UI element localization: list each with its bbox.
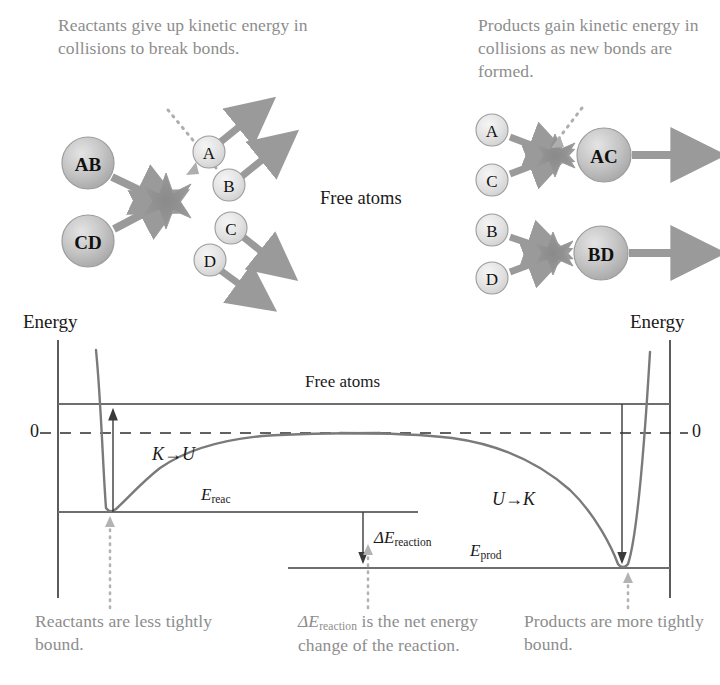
leader-products-bound-arrowhead bbox=[623, 572, 633, 583]
label-energy-right: Energy bbox=[630, 311, 685, 333]
atom-c-right: C bbox=[476, 164, 508, 196]
label-k-to-u: K→U bbox=[152, 444, 195, 465]
label-delta-e-reaction: ΔEreaction bbox=[374, 528, 431, 548]
molecule-ac: AC bbox=[577, 128, 631, 182]
figure-canvas: AB CD A B bbox=[0, 0, 720, 685]
atom-a-right-label: A bbox=[486, 122, 499, 141]
free-atoms-left-group: A B C D bbox=[193, 118, 273, 292]
starburst-icon-reactants bbox=[141, 173, 191, 229]
label-k-to-u-k: K bbox=[152, 444, 164, 464]
label-k-to-u-u: U bbox=[182, 444, 195, 464]
reaction-energy-diagram: AB CD A B bbox=[0, 0, 720, 685]
molecule-cd-label: CD bbox=[74, 232, 101, 253]
caption-delta-e-explanation: ΔEreaction is the net energy change of t… bbox=[298, 610, 513, 657]
caption-delta-e-text: is the net energy change of the reaction… bbox=[298, 611, 478, 655]
pointer-reactants-arrowhead bbox=[186, 162, 199, 175]
label-e-reac: Ereac bbox=[201, 485, 231, 505]
label-delta-e-sub: reaction bbox=[394, 536, 431, 548]
label-e-reac-sub: reac bbox=[211, 493, 230, 505]
starburst-icon-bd bbox=[533, 232, 573, 275]
atom-a-right: A bbox=[476, 114, 508, 146]
atom-c-left-label: C bbox=[225, 220, 236, 239]
molecule-ab: AB bbox=[62, 137, 114, 189]
molecule-ab-label: AB bbox=[75, 154, 102, 175]
label-free-atoms-level: Free atoms bbox=[305, 372, 380, 392]
caption-delta-e-symbol: ΔE bbox=[298, 611, 319, 631]
molecule-bd: BD bbox=[574, 226, 628, 280]
label-zero-right: 0 bbox=[692, 421, 701, 442]
arrow-atom-b bbox=[241, 151, 273, 177]
atom-a-left-label: A bbox=[203, 144, 216, 163]
caption-reactants: Reactants give up kinetic energy in coll… bbox=[58, 14, 308, 60]
atom-b-left: B bbox=[213, 169, 245, 201]
atom-c-left: C bbox=[215, 212, 247, 244]
label-e-prod-sub: prod bbox=[480, 549, 501, 561]
label-delta-e-main: ΔE bbox=[374, 528, 394, 547]
arrow-atom-c bbox=[242, 236, 272, 260]
atom-d-left: D bbox=[194, 244, 226, 276]
arrow-atom-d bbox=[220, 270, 250, 292]
atom-d-left-label: D bbox=[204, 252, 216, 271]
label-energy-left: Energy bbox=[23, 311, 78, 333]
label-e-reac-main: E bbox=[201, 485, 211, 504]
leader-delta-e-arrowhead bbox=[363, 544, 373, 555]
label-k-to-u-arrow: → bbox=[164, 444, 182, 464]
leader-reactants-bound-arrowhead bbox=[105, 516, 115, 527]
molecule-bd-label: BD bbox=[588, 244, 614, 265]
molecule-ac-label: AC bbox=[590, 146, 617, 167]
caption-delta-e-subscript: reaction bbox=[319, 620, 357, 632]
atom-d-right-label: D bbox=[486, 270, 498, 289]
label-free-atoms-middle: Free atoms bbox=[320, 188, 402, 209]
atom-b-left-label: B bbox=[223, 177, 234, 196]
atom-d-right: D bbox=[476, 262, 508, 294]
starburst-icon-ac bbox=[535, 134, 575, 177]
label-zero-left: 0 bbox=[30, 421, 39, 442]
arrow-atom-a bbox=[218, 118, 250, 144]
atom-b-right: B bbox=[476, 214, 508, 246]
caption-products: Products gain kinetic energy in collisio… bbox=[478, 14, 720, 83]
label-u-to-k-arrow: → bbox=[505, 489, 523, 509]
atom-b-right-label: B bbox=[486, 222, 497, 241]
molecule-cd: CD bbox=[62, 215, 114, 267]
atom-a-left: A bbox=[193, 136, 225, 168]
atom-c-right-label: C bbox=[486, 172, 497, 191]
product-formation-group: A C AC B D bbox=[476, 108, 688, 294]
label-e-prod: Eprod bbox=[470, 541, 501, 561]
label-u-to-k-k: K bbox=[523, 489, 535, 509]
label-e-prod-main: E bbox=[470, 541, 480, 560]
caption-reactants-less-bound: Reactants are less tightly bound. bbox=[35, 610, 255, 656]
caption-products-more-bound: Products are more tightly bound. bbox=[524, 610, 720, 656]
label-u-to-k: U→K bbox=[492, 489, 535, 510]
reactant-collision-group: AB CD bbox=[62, 110, 216, 267]
label-u-to-k-u: U bbox=[492, 489, 505, 509]
